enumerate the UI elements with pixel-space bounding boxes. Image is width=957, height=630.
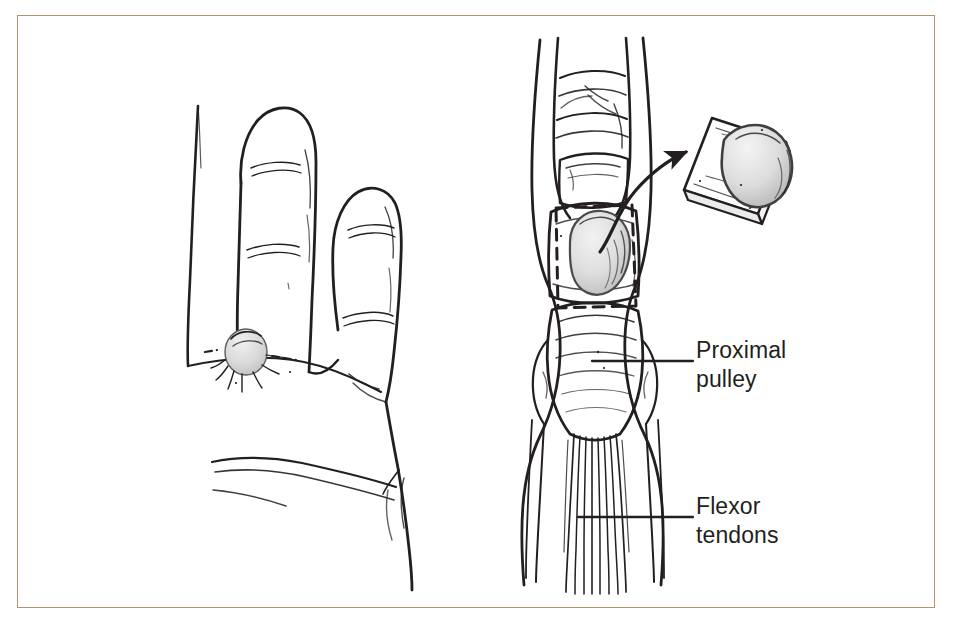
dissected-finger-group [522,38,686,594]
label-flexor-tendons: Flexor tendons [696,492,779,550]
figure-canvas: Proximal pulley Flexor tendons [0,0,957,630]
flexor-tendon-bundle [564,434,629,594]
label-proximal-pulley: Proximal pulley [696,336,786,394]
label-flexor-tendons-line1: Flexor [696,493,761,519]
label-flexor-tendons-line2: tendons [696,521,779,550]
excised-specimen-inset [684,118,792,224]
label-proximal-pulley-line1: Proximal [696,337,786,363]
illustration-artwork [0,0,957,630]
palm-view-group [188,106,412,590]
label-proximal-pulley-line2: pulley [696,365,786,394]
